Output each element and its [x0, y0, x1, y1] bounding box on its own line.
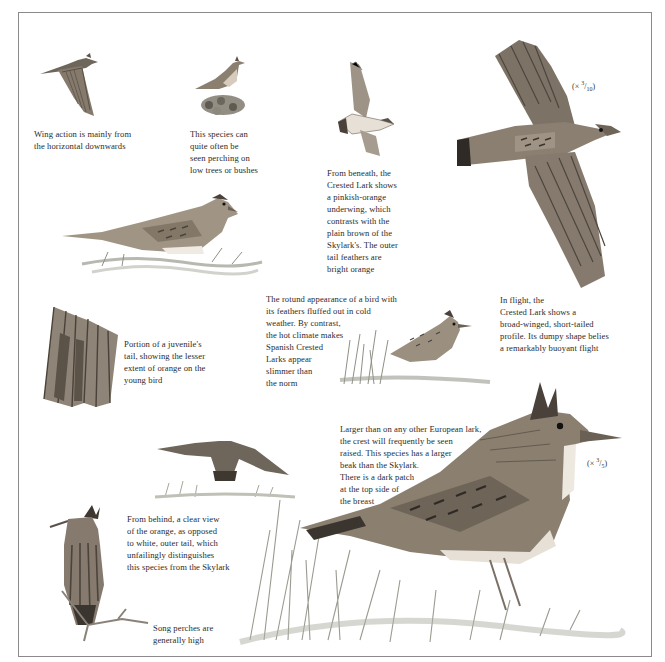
caption-behind: From behind, a clear view of the orange,… [127, 513, 230, 573]
caption-song-perch: Song perches are generally high [153, 622, 213, 646]
lark-standing-large-icon [240, 380, 620, 650]
lark-underside-flight-icon [336, 60, 401, 158]
flying-lark-side-icon [38, 52, 103, 120]
scale-label-standing: (× 3/5) [587, 457, 607, 469]
caption-in-flight: In flight, the Crested Lark shows a broa… [500, 294, 609, 354]
caption-juvenile-tail: Portion of a juvenile's tail, showing th… [124, 338, 206, 386]
juvenile-tail-feathers-icon [40, 303, 120, 411]
caption-rotund: The rotund appearance of a bird with its… [266, 293, 397, 389]
caption-crest: Larger than on any other European lark, … [340, 423, 481, 507]
caption-perching: This species can quite often be seen per… [190, 128, 258, 176]
lark-perched-on-bush-icon [193, 55, 253, 120]
caption-beneath: From beneath, the Crested Lark shows a p… [327, 167, 398, 275]
lark-large-flight-above-icon [455, 36, 630, 296]
lark-crouching-icon [62, 192, 267, 282]
caption-wing-action: Wing action is mainly from the horizonta… [34, 128, 131, 152]
scale-label-flight: (× 3/10) [572, 80, 595, 92]
